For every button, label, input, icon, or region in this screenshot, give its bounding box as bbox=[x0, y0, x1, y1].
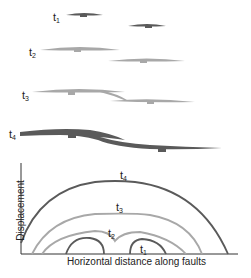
t1-faults bbox=[66, 13, 166, 28]
stage-label-t3: t3 bbox=[22, 90, 29, 102]
curve-label-t1: t1 bbox=[140, 244, 147, 256]
curve-label-t2: t2 bbox=[108, 228, 115, 240]
t3-faults bbox=[32, 89, 195, 104]
stage-label-t4: t4 bbox=[9, 129, 16, 141]
t4-faults bbox=[20, 129, 222, 152]
curve-t3 bbox=[32, 214, 202, 254]
stage-label-t1: t1 bbox=[53, 12, 60, 24]
stage-label-t2: t2 bbox=[29, 47, 36, 59]
fault-diagram bbox=[0, 0, 251, 278]
x-axis-label: Horizontal distance along faults bbox=[22, 256, 251, 267]
curve-t1-right bbox=[130, 239, 166, 254]
curve-label-t3: t3 bbox=[116, 202, 123, 214]
curve-t1-left bbox=[66, 238, 104, 254]
y-axis-label: Displacement bbox=[15, 171, 26, 251]
curve-label-t4: t4 bbox=[120, 170, 127, 182]
graph-axes bbox=[21, 163, 238, 254]
t2-faults bbox=[40, 47, 185, 63]
